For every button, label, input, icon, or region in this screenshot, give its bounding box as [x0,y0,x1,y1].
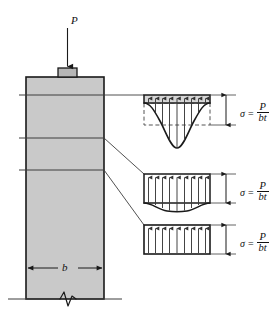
fraction: P bt [257,102,269,125]
leader-line-2 [104,138,144,174]
stress-2-equation: σ = P bt [240,181,269,204]
figure-canvas [0,0,280,320]
sigma-symbol: σ [240,238,245,249]
equals-symbol: = [248,238,254,249]
stress-3-equation: σ = P bt [240,232,269,255]
stress-3-arrows [149,229,206,254]
sigma-symbol: σ [240,108,245,119]
leader-line-3 [104,170,144,225]
load-label-P: P [71,14,78,26]
sigma-symbol: σ [240,187,245,198]
width-label-b: b [62,261,68,273]
stress-diagram-1 [144,95,236,148]
stress-diagram-2 [144,174,236,212]
stress-1-arrows [149,99,206,148]
numerator: P [257,102,267,113]
numerator: P [257,181,267,192]
stress-1-equation: σ = P bt [240,102,269,125]
bearing-plate [58,68,77,77]
denominator: bt [257,242,269,254]
stress-diagram-3 [144,225,236,254]
fraction: P bt [257,232,269,255]
numerator: P [257,232,267,243]
denominator: bt [257,112,269,124]
equals-symbol: = [248,187,254,198]
fraction: P bt [257,181,269,204]
leader-lines-group [104,95,144,225]
denominator: bt [257,191,269,203]
stress-distribution-figure: P b σ = P bt σ = P bt σ = P bt [0,0,280,320]
equals-symbol: = [248,108,254,119]
stress-2-arrows [149,178,206,212]
